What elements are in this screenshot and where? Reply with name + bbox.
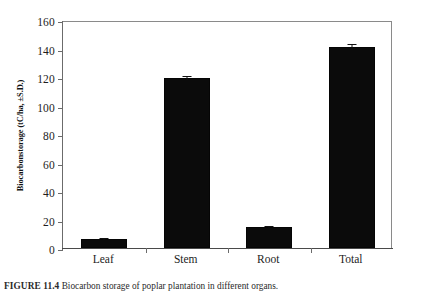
plot-area: 020406080100120140160: [62, 21, 392, 249]
y-axis-tick-label: 120: [37, 73, 55, 85]
bar-leaf: [81, 239, 127, 248]
y-axis-tick-label: 60: [43, 159, 55, 171]
y-axis-tick: [58, 250, 63, 251]
x-axis-tick: [228, 248, 229, 253]
bar-total: [329, 47, 375, 248]
y-axis-title: Biocarbonstorage (tC/ha, ±S.D.): [14, 21, 28, 249]
figure-caption: FIGURE 11.4 Biocarbon storage of poplar …: [4, 280, 419, 293]
y-axis-tick-label: 40: [43, 187, 55, 199]
y-axis-tick-label: 20: [43, 216, 55, 228]
error-bar-cap-stem: [182, 76, 191, 77]
y-axis-tick-label: 160: [37, 16, 55, 28]
y-axis-tick-label: 140: [37, 45, 55, 57]
bar-slot: [63, 22, 146, 248]
bar-slot: [146, 22, 229, 248]
x-axis-tick: [146, 248, 147, 253]
x-axis-label-stem: Stem: [174, 253, 198, 265]
x-axis-label-total: Total: [339, 253, 362, 265]
y-axis-tick-label: 100: [37, 102, 55, 114]
figure-container: Biocarbonstorage (tC/ha, ±S.D.) 02040608…: [0, 0, 421, 293]
bar-stem: [164, 78, 210, 248]
y-axis-tick-label: 80: [43, 130, 55, 142]
error-bar-cap-total: [347, 44, 356, 45]
x-axis-tick: [311, 248, 312, 253]
figure-caption-text: Biocarbon storage of poplar plantation i…: [62, 281, 279, 291]
error-bar-cap-leaf: [100, 238, 109, 239]
figure-caption-number: FIGURE 11.4: [4, 281, 59, 291]
x-axis-label-root: Root: [257, 253, 279, 265]
bar-slot: [228, 22, 311, 248]
y-axis-title-text: Biocarbonstorage (tC/ha, ±S.D.): [17, 79, 26, 191]
error-bar-cap-root: [265, 226, 274, 227]
bar-slot: [311, 22, 394, 248]
y-axis-tick-label: 0: [49, 244, 55, 256]
bar-root: [246, 227, 292, 248]
x-axis-label-leaf: Leaf: [93, 253, 114, 265]
